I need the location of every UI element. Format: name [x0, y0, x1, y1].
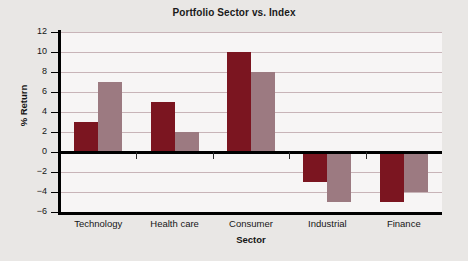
bar-health-care-index — [175, 132, 199, 152]
bar-chart: Portfolio Sector vs. Index 121086420−2−4… — [0, 0, 468, 261]
bar-technology-portfolio — [74, 122, 98, 152]
gridline — [60, 52, 442, 53]
zero-baseline — [60, 151, 442, 154]
y-axis-tick — [51, 212, 59, 213]
gridline — [60, 32, 442, 33]
plot-area — [60, 32, 442, 212]
y-axis-tick-label: −2 — [7, 167, 47, 176]
x-axis-label-finance: Finance — [366, 218, 442, 229]
x-axis-label-consumer: Consumer — [213, 218, 289, 229]
y-axis-tick — [51, 72, 59, 73]
bar-consumer-portfolio — [227, 52, 251, 152]
bar-consumer-index — [251, 72, 275, 152]
x-axis-label-industrial: Industrial — [289, 218, 365, 229]
y-axis-tick — [51, 52, 59, 53]
x-axis-line — [58, 212, 442, 215]
y-axis-tick — [51, 132, 59, 133]
x-axis-tick — [213, 152, 214, 159]
y-axis-tick-label: 10 — [7, 47, 47, 56]
x-axis-label-technology: Technology — [60, 218, 136, 229]
x-axis-tick — [289, 152, 290, 159]
x-axis-tick — [136, 152, 137, 159]
y-axis-tick-label: −6 — [7, 207, 47, 216]
y-axis-tick-label: −4 — [7, 187, 47, 196]
y-axis-line — [58, 30, 61, 214]
bar-health-care-portfolio — [151, 102, 175, 152]
y-axis-tick-label: 12 — [7, 27, 47, 36]
y-axis-tick — [51, 172, 59, 173]
x-axis-label-health-care: Health care — [136, 218, 212, 229]
chart-title: Portfolio Sector vs. Index — [0, 7, 468, 18]
x-axis-tick — [366, 152, 367, 159]
y-axis-tick — [51, 32, 59, 33]
y-axis-tick — [51, 92, 59, 93]
y-axis-tick — [51, 112, 59, 113]
y-axis-tick-label: 0 — [7, 147, 47, 156]
y-axis-title: % Return — [18, 66, 29, 146]
y-axis-tick — [51, 192, 59, 193]
bar-finance-index — [404, 152, 428, 192]
bar-technology-index — [98, 82, 122, 152]
x-axis-title: Sector — [60, 234, 442, 245]
bar-industrial-index — [327, 152, 351, 202]
bar-finance-portfolio — [380, 152, 404, 202]
bar-industrial-portfolio — [303, 152, 327, 182]
y-axis-tick — [51, 152, 59, 153]
